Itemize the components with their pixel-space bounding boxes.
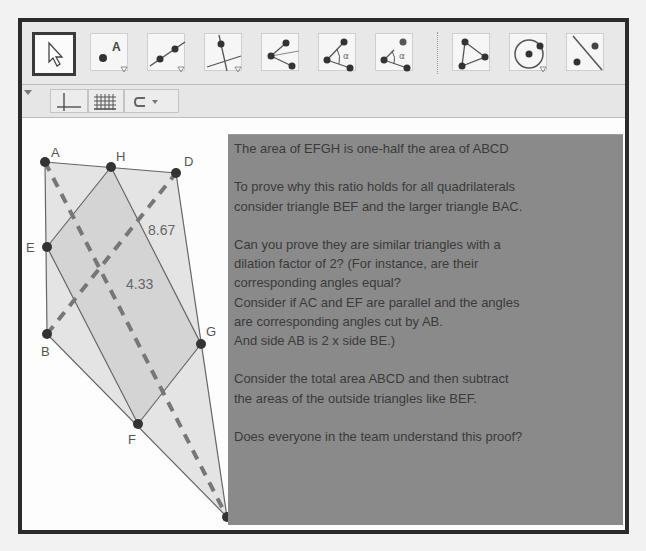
point-tool-button[interactable]: A: [90, 33, 128, 71]
triangle-icon: [453, 34, 491, 72]
line-through-two-points-icon: [148, 34, 186, 72]
point-label-a: A: [51, 145, 60, 160]
text-line: Can you prove they are similar triangles…: [234, 235, 623, 254]
text-line: Consider the total area ABCD and then su…: [234, 369, 623, 388]
angle-points-icon: α: [376, 34, 414, 72]
blank-line: [234, 158, 623, 177]
three-points-lines-icon: [262, 34, 300, 72]
proof-text-box[interactable]: The area of EFGH is one-half the area of…: [228, 134, 623, 525]
grid-toggle-button[interactable]: [88, 89, 124, 113]
blank-line: [234, 350, 623, 369]
point-label-e: E: [26, 240, 35, 255]
blank-line: [234, 408, 623, 427]
point-label-g: G: [206, 324, 216, 339]
point-label-f: F: [128, 432, 136, 447]
text-line: To prove why this ratio holds for all qu…: [234, 177, 623, 196]
text-line: corresponding angles equal?: [234, 273, 623, 292]
text-line: are corresponding angles cut by AB.: [234, 312, 623, 331]
point-label-h: H: [116, 149, 125, 164]
geogebra-window: A: [18, 18, 629, 534]
point-a-icon: A: [91, 34, 129, 72]
area-measurement-efgh-label: 4.33: [126, 276, 153, 292]
line-tool-button[interactable]: [147, 33, 185, 71]
svg-text:A: A: [112, 40, 121, 54]
axes-icon: [51, 90, 89, 114]
graphics-view[interactable]: A H D E B G F 8.67 4.33 The area of EFGH…: [22, 118, 625, 530]
text-line: consider triangle BEF and the larger tri…: [234, 197, 623, 216]
blank-line: [234, 216, 623, 235]
angle-icon: α: [319, 34, 357, 72]
perpendicular-line-tool-button[interactable]: [204, 33, 242, 71]
svg-text:α: α: [399, 51, 405, 61]
collapse-arrow-icon[interactable]: [24, 90, 32, 95]
text-line: Does everyone in the team understand thi…: [234, 427, 623, 446]
point-capture-dropdown[interactable]: [124, 89, 179, 113]
capture-icon: [125, 90, 180, 114]
chevron-down-icon: [152, 100, 158, 104]
axes-toggle-button[interactable]: [50, 89, 88, 113]
point-label-b: B: [41, 344, 50, 359]
cursor-arrow-icon: [35, 35, 73, 73]
toolbar: A: [22, 22, 625, 85]
move-tool-button[interactable]: [32, 32, 76, 76]
text-line: The area of EFGH is one-half the area of…: [234, 139, 623, 158]
reflect-tool-button[interactable]: [566, 33, 604, 71]
polygon-tool-button[interactable]: [452, 33, 490, 71]
style-bar: [22, 85, 625, 118]
text-line: Consider if AC and EF are parallel and t…: [234, 293, 623, 312]
circle-tool-button[interactable]: [509, 33, 547, 71]
area-measurement-abcd-label: 8.67: [148, 222, 175, 238]
toolbar-separator: [437, 32, 438, 74]
text-line: And side AB is 2 x side BE.): [234, 331, 623, 350]
svg-text:α: α: [343, 51, 349, 61]
circle-center-point-icon: [510, 34, 548, 72]
angle-measure-tool-button[interactable]: α: [375, 33, 413, 71]
segments-tool-button[interactable]: [261, 33, 299, 71]
angle-tool-button[interactable]: α: [318, 33, 356, 71]
text-line: dilation factor of 2? (For instance, are…: [234, 254, 623, 273]
perpendicular-line-icon: [205, 34, 243, 72]
grid-icon: [89, 90, 125, 114]
reflect-about-line-icon: [567, 34, 605, 72]
point-label-d: D: [184, 154, 193, 169]
text-line: the areas of the outside triangles like …: [234, 389, 623, 408]
